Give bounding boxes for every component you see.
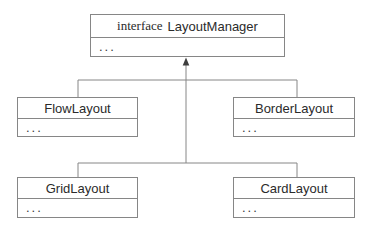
class-name: GridLayout [18,178,137,199]
upper-bracket-connector [78,80,297,97]
interface-stereotype-label: interface [117,18,162,34]
members-ellipsis: ... [91,38,284,56]
class-name: BorderLayout [234,98,354,119]
class-name: FlowLayout [18,98,137,119]
interface-name-label: LayoutManager [168,19,258,34]
members-ellipsis: ... [234,199,354,217]
lower-bracket-connector [78,163,297,177]
interface-title: interface LayoutManager [91,15,284,38]
class-box-flowlayout: FlowLayout ... [17,97,138,137]
members-ellipsis: ... [234,119,354,136]
interface-box-layoutmanager: interface LayoutManager ... [90,14,285,57]
inheritance-arrowhead [183,58,190,66]
class-box-gridlayout: GridLayout ... [17,177,138,218]
uml-diagram-canvas: interface LayoutManager ... FlowLayout .… [0,0,376,236]
members-ellipsis: ... [18,199,137,217]
members-ellipsis: ... [18,119,137,136]
class-name: CardLayout [234,178,354,199]
class-box-borderlayout: BorderLayout ... [233,97,355,137]
class-box-cardlayout: CardLayout ... [233,177,355,218]
